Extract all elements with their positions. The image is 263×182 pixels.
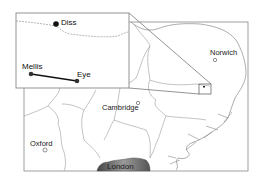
label-diss: Diss — [61, 18, 77, 27]
label-norwich: Norwich — [210, 48, 237, 57]
eye-marker — [75, 79, 80, 84]
mellis-marker — [29, 72, 34, 77]
label-oxford: Oxford — [30, 139, 53, 148]
label-london: London — [107, 162, 134, 171]
map-figure: Diss Mellis Eye Norwich Cambridge Oxford… — [0, 0, 263, 182]
locator-marker — [203, 86, 205, 88]
label-cambridge: Cambridge — [102, 103, 139, 112]
diss-marker — [53, 21, 59, 27]
label-mellis: Mellis — [22, 62, 42, 71]
label-eye: Eye — [77, 70, 91, 79]
